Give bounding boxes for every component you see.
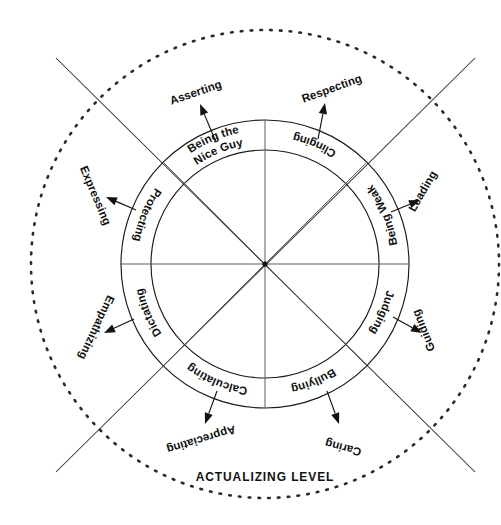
arrow-asserting-head [200, 104, 208, 116]
ring-label-judging: Judging [368, 289, 397, 336]
actualizing-level-caption: ACTUALIZING LEVEL [196, 470, 335, 484]
arrow-expressing [106, 197, 136, 210]
outer-label-caring: Caring [324, 437, 363, 458]
ring-label-protecting: Protecting [132, 186, 164, 242]
actualizing-level-diagram: BullyingCalculatingDictatingProtectingBe… [0, 0, 501, 525]
arrow-empathizing [104, 319, 134, 333]
ring-label-being-weak: Being Weak [364, 183, 399, 247]
outer-label-expressing: Expressing [78, 164, 114, 227]
arrow-caring [327, 391, 339, 424]
diagram-canvas: BullyingCalculatingDictatingProtectingBe… [0, 0, 501, 525]
arrow-appreciating-head [205, 412, 213, 424]
spoke-lines-group [121, 120, 409, 408]
arrow-empathizing-head [104, 325, 116, 333]
outer-labels-group: AssertingRespectingLeadingGuidingCaringA… [77, 72, 439, 459]
arrow-caring-shaft [327, 391, 335, 414]
arrow-respecting-shaft [318, 114, 323, 139]
outer-label-respecting: Respecting [300, 72, 363, 105]
arrow-caring-head [331, 412, 339, 424]
center-point [262, 261, 267, 266]
outer-label-leading: Leading [406, 169, 439, 214]
arrow-empathizing-shaft [114, 319, 134, 328]
arrow-guiding-shaft [393, 317, 412, 328]
arrow-appreciating-shaft [209, 391, 217, 414]
outer-label-asserting: Asserting [168, 78, 223, 107]
arrow-expressing-head [106, 197, 118, 205]
outer-label-appreciating: Appreciating [165, 424, 237, 456]
ring-label-bullying: Bullying [290, 367, 338, 396]
arrow-respecting-head [319, 103, 327, 115]
